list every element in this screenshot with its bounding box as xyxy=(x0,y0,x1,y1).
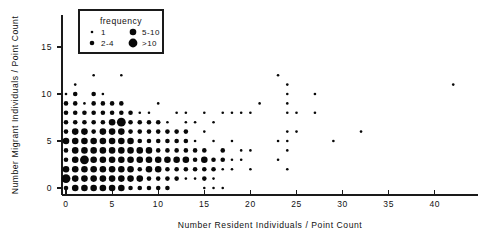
data-point xyxy=(295,112,298,115)
data-point xyxy=(193,167,198,172)
data-point xyxy=(221,168,224,171)
data-point xyxy=(201,157,208,164)
data-point xyxy=(118,138,125,145)
data-point xyxy=(166,121,169,124)
x-axis-ticks: 0510152025303540 xyxy=(63,190,440,209)
data-point xyxy=(110,111,115,116)
data-point xyxy=(64,120,69,125)
data-point xyxy=(109,185,116,192)
data-point xyxy=(194,121,197,124)
data-point xyxy=(184,129,189,134)
data-point-markers xyxy=(62,74,455,191)
data-point xyxy=(91,101,96,106)
data-point xyxy=(90,175,97,182)
data-point xyxy=(212,177,215,180)
data-point xyxy=(184,139,189,144)
data-point xyxy=(64,158,69,163)
y-axis-ticks: 051015 xyxy=(41,42,62,193)
legend: frequency 12-45-10>10 xyxy=(79,10,163,53)
data-point xyxy=(127,166,134,173)
data-point xyxy=(127,138,134,145)
data-point xyxy=(127,147,134,154)
data-point xyxy=(109,119,116,126)
data-point xyxy=(220,158,225,163)
data-point xyxy=(110,101,115,106)
data-point xyxy=(82,111,87,116)
data-point xyxy=(147,120,152,125)
data-point xyxy=(286,93,289,96)
data-point xyxy=(73,120,78,125)
data-point xyxy=(147,186,152,191)
data-point xyxy=(91,120,96,125)
data-point xyxy=(92,74,95,77)
data-point xyxy=(184,167,189,172)
data-point xyxy=(118,185,125,192)
x-axis-title: Number Resident Individuals / Point Coun… xyxy=(178,220,363,230)
data-point xyxy=(148,112,151,115)
data-point xyxy=(64,111,69,116)
data-point xyxy=(109,128,116,135)
data-point xyxy=(249,112,252,115)
data-point xyxy=(102,93,105,96)
data-point xyxy=(258,102,261,105)
data-point xyxy=(128,120,133,125)
data-point xyxy=(174,148,179,153)
data-point xyxy=(81,147,88,154)
data-point xyxy=(100,147,107,154)
frequency-scatter-plot: 0510152025303540 051015 frequency 12-45-… xyxy=(0,0,500,238)
data-point xyxy=(165,129,170,134)
data-point xyxy=(137,186,142,191)
data-point xyxy=(81,138,88,145)
data-point xyxy=(120,74,123,77)
data-point xyxy=(286,140,289,143)
data-point xyxy=(109,147,116,154)
data-point xyxy=(137,139,142,144)
data-point xyxy=(249,149,252,152)
legend-marker xyxy=(90,41,95,46)
data-point xyxy=(138,112,141,115)
data-point xyxy=(81,185,88,192)
scatter-plot-figure: 0510152025303540 051015 frequency 12-45-… xyxy=(0,0,500,238)
data-point xyxy=(194,177,197,180)
legend-label: 2-4 xyxy=(101,39,114,48)
data-point xyxy=(65,93,68,96)
legend-label: 5-10 xyxy=(142,28,160,37)
data-point xyxy=(174,167,179,172)
x-tick-label: 5 xyxy=(109,199,114,209)
data-point xyxy=(109,166,116,173)
data-point xyxy=(156,148,161,153)
data-point xyxy=(277,74,280,77)
data-point xyxy=(211,167,216,172)
data-point xyxy=(146,157,153,164)
data-point xyxy=(286,168,289,171)
data-point xyxy=(118,166,125,173)
data-point xyxy=(72,147,79,154)
data-point xyxy=(72,185,79,192)
data-point xyxy=(360,130,363,133)
data-point xyxy=(72,157,79,164)
data-point xyxy=(101,111,106,116)
data-point xyxy=(202,176,207,181)
data-point xyxy=(137,167,142,172)
data-point xyxy=(295,130,298,133)
data-point xyxy=(156,176,161,181)
x-tick-label: 0 xyxy=(63,199,68,209)
data-point xyxy=(90,147,97,154)
data-point xyxy=(72,175,79,182)
data-point xyxy=(90,166,97,173)
data-point xyxy=(90,185,97,192)
data-point xyxy=(146,147,153,154)
data-point xyxy=(73,92,78,97)
y-tick-label: 15 xyxy=(41,42,52,52)
data-point xyxy=(221,187,224,190)
data-point xyxy=(212,121,215,124)
data-point xyxy=(212,187,215,190)
data-point xyxy=(100,166,107,173)
data-point xyxy=(100,138,107,145)
data-point xyxy=(193,158,198,163)
data-point xyxy=(147,129,152,134)
data-point xyxy=(81,175,88,182)
data-point xyxy=(194,140,197,143)
data-point xyxy=(173,157,180,164)
legend-title: frequency xyxy=(100,16,142,26)
